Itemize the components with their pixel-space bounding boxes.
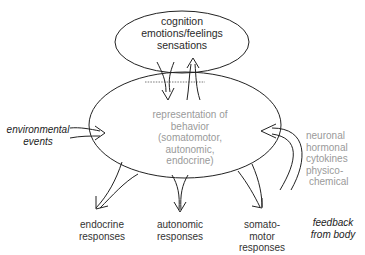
center-node-line: behavior xyxy=(130,121,250,133)
environmental-line: events xyxy=(2,136,74,148)
arrow-down-to-representation xyxy=(157,62,174,100)
output-line: responses xyxy=(150,231,210,243)
environmental-line: environmental xyxy=(2,124,74,136)
feedback-type-line: neuronal xyxy=(306,130,362,142)
output-line: somato- xyxy=(232,219,292,231)
arrow-somatomotor-response xyxy=(238,164,262,208)
feedback-type-line: hormonal xyxy=(306,142,362,154)
autonomic-responses-label: autonomic responses xyxy=(150,219,210,242)
feedback-type-line: cytokines xyxy=(306,153,362,165)
endocrine-responses-label: endocrine responses xyxy=(72,219,132,242)
feedback-line: feedback xyxy=(304,217,362,229)
center-node-label: representation of behavior (somatomotor,… xyxy=(130,109,250,167)
top-node-line: sensations xyxy=(125,39,239,51)
feedback-types-label: neuronal hormonal cytokines physico- che… xyxy=(306,130,362,188)
top-node-line: cognition xyxy=(125,15,239,27)
center-node-line: autonomic, xyxy=(130,144,250,156)
output-line: autonomic xyxy=(150,219,210,231)
output-line: responses xyxy=(72,231,132,243)
top-node-label: cognition emotions/feelings sensations xyxy=(125,15,239,51)
output-line: endocrine xyxy=(72,219,132,231)
feedback-type-line: chemical xyxy=(306,176,362,188)
feedback-from-body-label: feedback from body xyxy=(304,217,362,240)
center-node-line: representation of xyxy=(130,109,250,121)
somatomotor-responses-label: somato- motor responses xyxy=(232,219,292,254)
arrow-feedback-from-body xyxy=(261,124,302,190)
feedback-type-line: physico- xyxy=(306,165,362,177)
arrow-autonomic-response xyxy=(172,175,188,212)
output-line: motor xyxy=(232,231,292,243)
top-node-line: emotions/feelings xyxy=(125,27,239,39)
feedback-line: from body xyxy=(304,229,362,241)
arrow-up-to-cognition xyxy=(187,58,200,100)
center-node-line: (somatomotor, xyxy=(130,132,250,144)
output-line: responses xyxy=(232,242,292,254)
arrow-environmental-events xyxy=(70,126,105,140)
center-node-line: endocrine) xyxy=(130,155,250,167)
environmental-events-label: environmental events xyxy=(2,124,74,147)
